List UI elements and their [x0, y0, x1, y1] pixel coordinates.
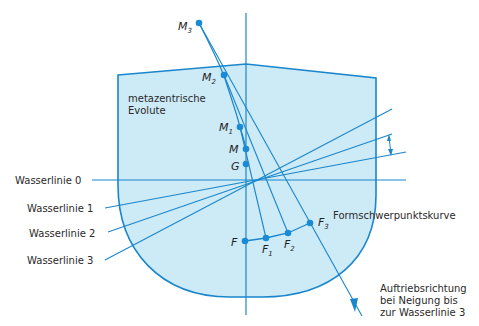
label-g: G: [231, 160, 240, 173]
buoyancy-label-line3: zur Wasserlinie 3: [380, 307, 465, 318]
waterline-2-label: Wasserlinie 2: [29, 228, 95, 239]
buoyancy-label-line1: Auftriebsrichtung: [380, 283, 467, 294]
point-m1: [237, 124, 244, 131]
waterline-1-label: Wasserlinie 1: [27, 203, 93, 214]
point-f: [242, 238, 249, 245]
heel-angle-indicator: [387, 134, 393, 156]
evolute-label-line2: Evolute: [128, 105, 166, 116]
point-f2: [285, 230, 292, 237]
point-f1: [263, 235, 270, 242]
point-m3: [196, 20, 203, 27]
buoyancy-arrow-icon: [350, 298, 358, 312]
point-m: [243, 146, 250, 153]
waterline-0-label: Wasserlinie 0: [15, 175, 81, 186]
point-m2: [221, 72, 228, 79]
waterline-3-label: Wasserlinie 3: [27, 255, 93, 266]
evolute-label-line1: metazentrische: [128, 93, 206, 104]
point-g: [243, 161, 250, 168]
label-m: M: [229, 143, 239, 156]
buoyancy-label-line2: bei Neigung bis: [380, 295, 458, 306]
ship-stability-diagram: M3 M2 M1 M G F F1 F2 F3 metazentrische E…: [0, 0, 479, 326]
label-m3: M3: [178, 20, 192, 35]
point-f3: [307, 220, 314, 227]
label-f: F: [231, 236, 238, 249]
form-centroid-curve-label: Formschwerpunktskurve: [333, 210, 456, 221]
